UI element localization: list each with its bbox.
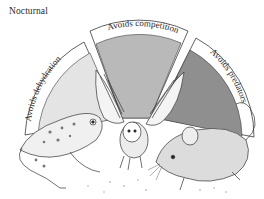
nocturnal-advantages-diagram: Avoids dehydration Avoids competition Av… (0, 0, 264, 199)
